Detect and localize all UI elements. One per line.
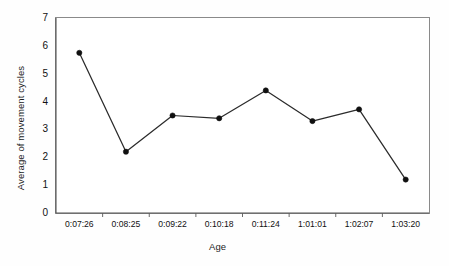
data-point-4 xyxy=(263,88,268,93)
plot-border xyxy=(56,18,430,214)
data-point-1 xyxy=(123,149,128,154)
x-tick-label-7: 1:03:20 xyxy=(376,219,436,229)
data-point-6 xyxy=(356,107,361,112)
line-chart-figure: Average of movement cycles 0 1 2 3 4 5 6… xyxy=(0,0,449,266)
data-point-2 xyxy=(170,113,175,118)
x-axis-title-text: Age xyxy=(209,241,226,252)
data-point-5 xyxy=(310,118,315,123)
data-point-7 xyxy=(403,177,408,182)
data-point-0 xyxy=(77,50,82,55)
data-point-3 xyxy=(217,116,222,121)
x-axis-title: Age xyxy=(0,241,449,252)
